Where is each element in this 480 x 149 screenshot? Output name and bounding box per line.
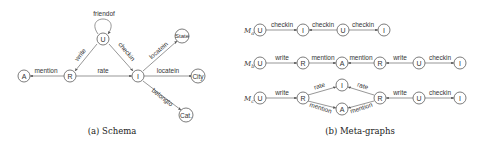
metagraph-Mc: Mc: write rate mention rate mention writ… (243, 79, 466, 115)
Mb-node-2: A (336, 57, 348, 69)
Mc-edge-label-6: checkin (429, 89, 451, 96)
svg-text:State: State (175, 33, 190, 39)
Mc-edge-label-5: write (392, 89, 407, 96)
caption-metagraphs: (b) Meta-graphs (325, 126, 395, 136)
Mb-edge-label-3: write (392, 54, 407, 61)
metagraph-Ma: Ma: checkin checkin checkin U I U I (243, 21, 390, 36)
label-checkin: checkin (117, 41, 137, 63)
Mb-edge-label-2: mention (349, 54, 373, 61)
Mc-edge-label-2: mention (309, 101, 334, 115)
svg-text:I: I (137, 73, 139, 80)
svg-text:R: R (300, 60, 305, 67)
schema-diagram: friendof write checkin mention rate loca… (18, 10, 205, 136)
label-rate: rate (97, 67, 109, 74)
svg-text:U: U (416, 95, 421, 102)
svg-text:R: R (67, 73, 72, 80)
svg-text:U: U (340, 27, 345, 34)
svg-text:I: I (459, 60, 461, 67)
Mb-node-3: R (374, 57, 386, 69)
Ma-node-2: U (337, 24, 349, 36)
svg-text:A: A (340, 106, 345, 113)
node-R: R (64, 70, 76, 82)
Mb-edge-label-1: mention (311, 54, 335, 61)
Mc-edge-label-0: write (274, 89, 289, 96)
svg-text:U: U (257, 27, 262, 34)
node-I: I (132, 70, 144, 82)
Mc-node-5: U (413, 92, 425, 104)
svg-text:I: I (341, 82, 343, 89)
Mb-node-1: R (297, 57, 309, 69)
label-belongto: belongto (150, 87, 175, 109)
node-A: A (18, 70, 30, 82)
label-mention: mention (34, 67, 58, 74)
metagraph-Mb: Mb: write mention mention write checkin … (243, 54, 466, 69)
svg-text:U: U (416, 60, 421, 67)
Ma-node-0: U (254, 24, 266, 36)
svg-text:U: U (257, 60, 262, 67)
svg-text:U: U (100, 36, 105, 43)
Mb-node-4: U (413, 57, 425, 69)
metagraphs-diagram: Ma: checkin checkin checkin U I U I Mb: … (243, 21, 466, 136)
Mc-node-1: R (297, 92, 309, 104)
svg-text:A: A (22, 73, 27, 80)
Mc-node-4: R (374, 92, 386, 104)
Mc-edge-label-1: rate (313, 80, 326, 90)
Mb-edge-label-4: checkin (429, 54, 451, 61)
Mc-node-3: A (336, 103, 348, 115)
Ma-edge-label-1: checkin (312, 21, 334, 28)
node-State: State (175, 29, 190, 43)
node-City: City (191, 69, 205, 83)
caption-schema: (a) Schema (88, 126, 137, 136)
svg-text:I: I (302, 27, 304, 34)
svg-text:R: R (377, 60, 382, 67)
Ma-edge-label-0: checkin (271, 21, 293, 28)
svg-text:Cat.: Cat. (180, 112, 192, 119)
svg-text:A: A (340, 60, 345, 67)
svg-text:I: I (459, 95, 461, 102)
svg-text:I: I (383, 27, 385, 34)
Ma-node-1: I (297, 24, 309, 36)
label-locatein-city: locatein (157, 67, 180, 74)
label-friendof: friendof (93, 10, 115, 17)
node-Cat: Cat. (179, 108, 193, 122)
label-write: write (72, 47, 87, 63)
node-U: U (97, 33, 109, 45)
Mc-edge-label-4: mention (349, 101, 374, 115)
Mc-edge-label-3: rate (356, 81, 369, 91)
svg-text:U: U (257, 95, 262, 102)
Ma-edge-label-2: checkin (352, 21, 374, 28)
Mb-node-0: U (254, 57, 266, 69)
svg-text:R: R (300, 95, 305, 102)
Mc-node-2: I (336, 79, 348, 91)
Mb-node-5: I (454, 57, 466, 69)
svg-text:R: R (377, 95, 382, 102)
Mb-edge-label-0: write (274, 54, 289, 61)
figure: friendof write checkin mention rate loca… (0, 0, 480, 149)
Mc-node-0: U (254, 92, 266, 104)
Mc-node-6: I (454, 92, 466, 104)
Ma-node-3: I (378, 24, 390, 36)
svg-text:City: City (192, 73, 204, 81)
edge-friendof (95, 19, 111, 34)
